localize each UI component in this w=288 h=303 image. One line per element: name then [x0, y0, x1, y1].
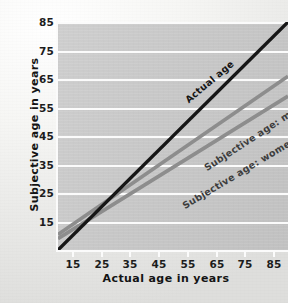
x-tick-label-15: 15	[58, 258, 88, 270]
x-tick-mark-35	[129, 252, 131, 257]
x-tick-label-85: 85	[259, 258, 288, 270]
y-axis-title: Subjective age in years	[28, 35, 41, 235]
x-tick-label-75: 75	[230, 258, 260, 270]
chart-figure: Actual age Subjective age: men Subjectiv…	[0, 0, 288, 303]
series-line-subjective-age-men	[58, 76, 288, 234]
x-tick-label-55: 55	[173, 258, 203, 270]
x-tick-mark-85	[273, 252, 275, 257]
x-tick-label-45: 45	[144, 258, 174, 270]
x-axis-line	[56, 250, 288, 252]
x-tick-mark-25	[101, 252, 103, 257]
x-tick-label-25: 25	[87, 258, 117, 270]
x-tick-label-65: 65	[202, 258, 232, 270]
y-axis-line	[56, 20, 58, 252]
x-tick-mark-75	[244, 252, 246, 257]
x-tick-mark-55	[187, 252, 189, 257]
x-axis-title: Actual age in years	[58, 272, 274, 285]
x-tick-mark-65	[216, 252, 218, 257]
x-tick-mark-15	[72, 252, 74, 257]
x-tick-mark-45	[158, 252, 160, 257]
x-tick-label-35: 35	[115, 258, 145, 270]
y-tick-label-85: 85	[20, 17, 54, 27]
plot-area: Actual age Subjective age: men Subjectiv…	[58, 22, 288, 250]
